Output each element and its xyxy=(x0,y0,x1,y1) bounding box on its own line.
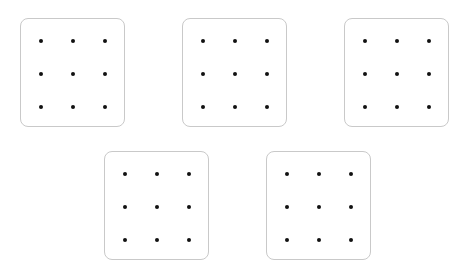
grid-dot-r2-c2 xyxy=(395,72,399,76)
grid-dot-r1-c1 xyxy=(39,39,43,43)
dot-grid-panel-3 xyxy=(344,18,449,127)
grid-dot-r2-c1 xyxy=(201,72,205,76)
grid-dot-r2-c1 xyxy=(285,205,289,209)
grid-dot-r1-c2 xyxy=(71,39,75,43)
grid-dot-r3-c1 xyxy=(201,105,205,109)
grid-dot-r2-c3 xyxy=(349,205,353,209)
grid-dot-r3-c3 xyxy=(427,105,431,109)
grid-dot-r2-c2 xyxy=(317,205,321,209)
grid-dot-r1-c2 xyxy=(395,39,399,43)
dot-grid-panel-4 xyxy=(104,151,209,260)
grid-dot-r2-c1 xyxy=(39,72,43,76)
grid-dot-r3-c1 xyxy=(363,105,367,109)
grid-dot-r3-c2 xyxy=(155,238,159,242)
grid-dot-r3-c3 xyxy=(265,105,269,109)
grid-dot-r3-c2 xyxy=(233,105,237,109)
grid-dot-r3-c2 xyxy=(71,105,75,109)
grid-dot-r1-c2 xyxy=(233,39,237,43)
grid-dot-r3-c3 xyxy=(187,238,191,242)
grid-dot-r2-c3 xyxy=(427,72,431,76)
grid-dot-r3-c2 xyxy=(317,238,321,242)
grid-dot-r1-c3 xyxy=(427,39,431,43)
grid-dot-r2-c1 xyxy=(363,72,367,76)
grid-dot-r1-c3 xyxy=(349,172,353,176)
grid-dot-r2-c2 xyxy=(71,72,75,76)
grid-dot-r1-c2 xyxy=(317,172,321,176)
dot-grid-panel-5 xyxy=(266,151,371,260)
grid-dot-r2-c3 xyxy=(265,72,269,76)
grid-dot-r1-c3 xyxy=(187,172,191,176)
grid-dot-r2-c3 xyxy=(187,205,191,209)
grid-dot-r1-c1 xyxy=(201,39,205,43)
dot-grid-panel-2 xyxy=(182,18,287,127)
grid-dot-r1-c3 xyxy=(103,39,107,43)
grid-dot-r2-c2 xyxy=(233,72,237,76)
grid-dot-r2-c2 xyxy=(155,205,159,209)
grid-dot-r3-c1 xyxy=(285,238,289,242)
grid-dot-r3-c2 xyxy=(395,105,399,109)
grid-dot-r1-c1 xyxy=(285,172,289,176)
grid-dot-r1-c2 xyxy=(155,172,159,176)
grid-dot-r1-c3 xyxy=(265,39,269,43)
grid-dot-r1-c1 xyxy=(363,39,367,43)
grid-dot-r3-c1 xyxy=(123,238,127,242)
grid-dot-r2-c3 xyxy=(103,72,107,76)
dot-grid-panel-1 xyxy=(20,18,125,127)
grid-dot-r3-c3 xyxy=(349,238,353,242)
grid-dot-r2-c1 xyxy=(123,205,127,209)
grid-dot-r3-c1 xyxy=(39,105,43,109)
grid-dot-r3-c3 xyxy=(103,105,107,109)
grid-dot-r1-c1 xyxy=(123,172,127,176)
